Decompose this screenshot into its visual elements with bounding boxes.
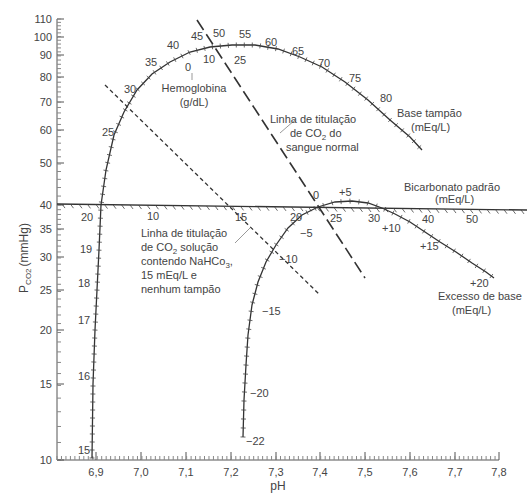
svg-text:30: 30 [368, 212, 380, 224]
svg-text:(mEq/L): (mEq/L) [435, 193, 474, 205]
svg-text:Bicarbonato padrão: Bicarbonato padrão [404, 181, 500, 193]
y-tick-label: 35 [40, 223, 52, 235]
x-axis-title: pH [270, 479, 285, 493]
x-tick-label: 7,0 [133, 466, 148, 478]
svg-text:+10: +10 [382, 222, 401, 234]
x-tick-label: 7,8 [491, 466, 506, 478]
standard-bicarbonate-tick-labels: 10 15 20 25 30 40 50 [147, 210, 478, 225]
x-axis-tick-labels: 6,97,07,17,27,37,47,57,67,77,8 [88, 466, 506, 478]
solution-titration-label: Linha de titulação de CO2 solução conten… [141, 227, 250, 295]
svg-text:(mEq/L): (mEq/L) [411, 121, 450, 133]
svg-text:80: 80 [380, 92, 392, 104]
y-tick-label: 110 [34, 13, 52, 25]
y-tick-label: 50 [40, 157, 52, 169]
svg-text:15 mEq/L e: 15 mEq/L e [141, 269, 197, 281]
y-axis-title: PCO2(mmHg) [17, 223, 33, 293]
svg-text:sangue normal: sangue normal [286, 141, 359, 153]
svg-text:25: 25 [330, 212, 342, 224]
svg-text:(g/dL): (g/dL) [180, 96, 209, 108]
y-tick-label: 25 [40, 284, 52, 296]
nomogram-chart: 110100908070605040353025201510 6,97,07,1… [0, 0, 531, 500]
svg-text:50: 50 [213, 27, 225, 39]
blood-titration-label: Linha de titulação de CO2 do sangue norm… [270, 113, 359, 153]
svg-text:−10: −10 [279, 253, 298, 265]
hemoglobin-annotation: 0 10 25 Hemoglobina (g/dL) [162, 53, 247, 108]
svg-text:70: 70 [318, 57, 330, 69]
svg-text:+20: +20 [470, 277, 489, 289]
svg-text:de CO2 do: de CO2 do [290, 127, 342, 142]
svg-text:Linha de titulação: Linha de titulação [270, 113, 356, 125]
svg-text:20: 20 [81, 211, 93, 223]
svg-text:contendo NaHCo3,: contendo NaHCo3, [141, 255, 233, 270]
svg-text:PCO2(mmHg): PCO2(mmHg) [17, 223, 33, 293]
svg-text:15: 15 [78, 444, 90, 456]
y-tick-label: 60 [40, 124, 52, 136]
svg-text:de CO2 solução: de CO2 solução [141, 241, 218, 256]
base-excess-curve [241, 199, 494, 437]
svg-text:65: 65 [292, 45, 304, 57]
svg-text:35: 35 [145, 56, 157, 68]
svg-text:45: 45 [191, 30, 203, 42]
svg-text:Linha de titulação: Linha de titulação [141, 227, 227, 239]
svg-text:−20: −20 [250, 387, 269, 399]
svg-text:−15: −15 [262, 305, 281, 317]
x-tick-label: 7,5 [357, 466, 372, 478]
svg-text:(mEq/L): (mEq/L) [452, 304, 491, 316]
x-tick-label: 7,7 [447, 466, 462, 478]
base-excess-label: Excesso de base (mEq/L) [438, 290, 522, 316]
svg-text:16: 16 [78, 370, 90, 382]
y-axis [57, 19, 64, 460]
svg-text:+5: +5 [339, 186, 352, 198]
buffer-base-tick-labels: 15 16 17 18 19 20 25 30 35 40 45 50 55 6… [78, 27, 392, 456]
x-tick-label: 7,3 [268, 466, 283, 478]
svg-text:Hemoglobina: Hemoglobina [162, 82, 228, 94]
svg-text:10: 10 [203, 53, 215, 65]
svg-text:0: 0 [185, 61, 191, 73]
svg-text:0: 0 [313, 189, 319, 201]
y-tick-label: 80 [40, 71, 52, 83]
svg-text:+15: +15 [420, 240, 439, 252]
y-tick-label: 30 [40, 251, 52, 263]
svg-text:nenhum tampão: nenhum tampão [141, 283, 221, 295]
standard-bicarbonate-label: Bicarbonato padrão (mEq/L) [404, 181, 500, 205]
x-tick-label: 7,6 [402, 466, 417, 478]
y-tick-label: 10 [40, 454, 52, 466]
svg-text:15: 15 [235, 211, 247, 223]
x-tick-label: 7,4 [312, 466, 327, 478]
svg-text:−22: −22 [246, 435, 265, 447]
x-tick-label: 6,9 [88, 466, 103, 478]
svg-text:10: 10 [147, 210, 159, 222]
svg-text:25: 25 [234, 54, 246, 66]
svg-text:60: 60 [265, 36, 277, 48]
svg-text:55: 55 [239, 28, 251, 40]
y-tick-label: 15 [40, 378, 52, 390]
svg-text:25: 25 [102, 126, 114, 138]
svg-text:−5: −5 [300, 227, 313, 239]
y-tick-label: 20 [40, 324, 52, 336]
svg-text:20: 20 [290, 211, 302, 223]
y-tick-label: 100 [34, 31, 52, 43]
svg-text:17: 17 [78, 314, 90, 326]
svg-text:Base tampão: Base tampão [397, 107, 462, 119]
x-axis [57, 452, 499, 460]
y-tick-label: 40 [40, 199, 52, 211]
base-excess-tick-labels: −22 −20 −15 −10 −5 0 +5 +10 +15 +20 [246, 186, 489, 447]
svg-text:30: 30 [124, 83, 136, 95]
x-tick-label: 7,1 [178, 466, 193, 478]
svg-text:40: 40 [422, 213, 434, 225]
svg-text:Excesso de base: Excesso de base [438, 290, 522, 302]
svg-text:18: 18 [78, 277, 90, 289]
svg-text:75: 75 [349, 72, 361, 84]
x-tick-label: 7,2 [223, 466, 238, 478]
svg-text:19: 19 [80, 243, 92, 255]
y-tick-label: 90 [40, 49, 52, 61]
svg-text:40: 40 [167, 39, 179, 51]
svg-text:50: 50 [466, 213, 478, 225]
buffer-base-label: Base tampão (mEq/L) [397, 107, 462, 133]
y-axis-tick-labels: 110100908070605040353025201510 [34, 13, 52, 466]
y-tick-label: 70 [40, 96, 52, 108]
